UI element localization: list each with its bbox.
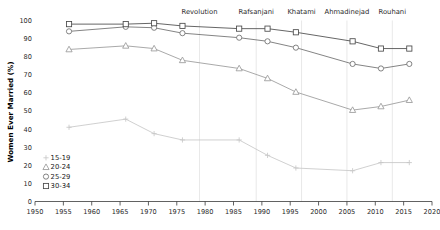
x-tick-label: 1955 — [55, 208, 72, 216]
y-tick-label: 20 — [24, 162, 32, 170]
marker-plus — [43, 155, 48, 160]
marker-plus — [265, 153, 270, 158]
marker-square — [152, 21, 157, 26]
x-tick-label: 1995 — [282, 208, 299, 216]
chart-figure: 0102030405060708090100 Women Ever Marrie… — [0, 0, 440, 230]
x-tick-label: 1975 — [168, 208, 185, 216]
marker-plus — [152, 131, 157, 136]
marker-square — [293, 30, 298, 35]
marker-circle — [66, 29, 71, 34]
legend-item-30-34: 30-34 — [43, 182, 70, 190]
marker-plus — [66, 125, 71, 130]
era-label-ahmadinejad: Ahmadinejad — [325, 8, 370, 16]
legend-label-15-19: 15-19 — [51, 154, 71, 162]
marker-triangle — [406, 97, 412, 103]
marker-plus — [378, 160, 383, 165]
marker-circle — [265, 39, 270, 44]
legend-label-25-29: 25-29 — [51, 173, 71, 181]
data-series-group — [66, 21, 412, 174]
marker-triangle — [293, 89, 299, 95]
x-tick-label: 2000 — [310, 208, 327, 216]
y-tick-label: 50 — [24, 107, 32, 115]
x-axis: 1950195519601965197019751980198519901995… — [27, 202, 440, 217]
marker-square — [407, 46, 412, 51]
legend-item-20-24: 20-24 — [43, 163, 70, 171]
y-tick-label: 30 — [24, 144, 32, 152]
marker-triangle — [123, 43, 129, 49]
series-line-25-29 — [69, 27, 409, 69]
y-tick-label: 70 — [24, 71, 32, 79]
marker-plus — [237, 137, 242, 142]
x-tick-label: 1985 — [225, 208, 242, 216]
marker-square — [180, 23, 185, 28]
legend-item-15-19: 15-19 — [43, 154, 70, 162]
marker-plus — [123, 117, 128, 122]
marker-square — [265, 26, 270, 31]
marker-circle — [180, 31, 185, 36]
marker-plus — [350, 168, 355, 173]
marker-square — [66, 22, 71, 27]
y-tick-label: 40 — [24, 126, 32, 134]
marker-square — [378, 46, 383, 51]
y-tick-label: 60 — [24, 89, 32, 97]
y-tick-label: 100 — [19, 17, 32, 25]
chart-legend: 15-1920-2425-2930-34 — [43, 154, 70, 190]
x-tick-label: 2010 — [367, 208, 384, 216]
era-annotations-group: RevolutionRafsanjaniKhatamiAhmadinejadRo… — [181, 8, 406, 16]
legend-item-25-29: 25-29 — [43, 173, 70, 181]
y-tick-label: 80 — [24, 53, 32, 61]
y-tick-label: 0 — [28, 198, 32, 206]
marker-plus — [180, 137, 185, 142]
marker-square — [123, 22, 128, 27]
y-tick-label: 90 — [24, 35, 32, 43]
series-15-19 — [66, 117, 411, 174]
series-line-20-24 — [69, 46, 409, 110]
marker-square — [237, 26, 242, 31]
x-tick-label: 2015 — [395, 208, 412, 216]
era-label-revolution: Revolution — [181, 8, 217, 16]
series-20-24 — [66, 43, 412, 113]
marker-circle — [237, 35, 242, 40]
x-tick-label: 1965 — [112, 208, 129, 216]
marker-triangle — [43, 164, 49, 170]
marker-plus — [407, 160, 412, 165]
y-axis: 0102030405060708090100 Women Ever Marrie… — [6, 17, 32, 206]
x-tick-label: 1980 — [197, 208, 214, 216]
marker-square — [350, 39, 355, 44]
x-tick-label: 1970 — [140, 208, 157, 216]
legend-label-20-24: 20-24 — [51, 163, 71, 171]
legend-label-30-34: 30-34 — [51, 182, 71, 190]
marker-circle — [350, 61, 355, 66]
x-tick-label: 2020 — [424, 208, 440, 216]
era-label-rafsanjani: Rafsanjani — [238, 8, 274, 16]
marker-circle — [378, 66, 383, 71]
y-tick-label: 10 — [24, 180, 32, 188]
x-tick-label: 1990 — [253, 208, 270, 216]
y-axis-title: Women Ever Married (%) — [6, 62, 15, 163]
marker-circle — [43, 174, 48, 179]
marker-circle — [407, 61, 412, 66]
era-label-khatami: Khatami — [287, 8, 315, 16]
x-tick-label: 1950 — [27, 208, 44, 216]
marker-square — [43, 183, 48, 188]
line-chart-canvas: 0102030405060708090100 Women Ever Marrie… — [0, 0, 440, 230]
marker-circle — [293, 45, 298, 50]
marker-plus — [293, 165, 298, 170]
era-label-rouhani: Rouhani — [379, 8, 407, 16]
x-tick-label: 2005 — [339, 208, 356, 216]
x-tick-label: 1960 — [83, 208, 100, 216]
series-line-15-19 — [69, 119, 409, 171]
